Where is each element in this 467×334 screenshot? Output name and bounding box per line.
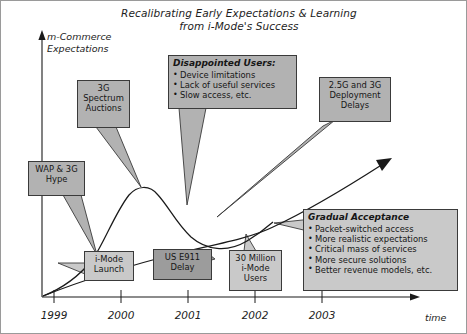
callout-wap-hype-line2: Hype	[33, 174, 80, 184]
list-item: Device limitations	[173, 70, 292, 80]
callout-gradual-acceptance[interactable]: Gradual Acceptance Packet-switched acces…	[303, 209, 458, 291]
pointer-disappointed-users	[179, 108, 206, 205]
callout-imode-launch[interactable]: i-Mode Launch	[84, 251, 134, 281]
y-axis-label: m-Commerce Expectations	[47, 31, 139, 55]
x-axis	[42, 290, 420, 303]
pointer-wap-hype	[63, 195, 97, 255]
callout-imode-launch-line2: Launch	[89, 264, 129, 274]
list-item: Packet-switched access	[308, 224, 453, 234]
chart-title-line1: Recalibrating Early Expectations	[121, 7, 295, 19]
callout-imode-users-line2: i-Mode	[234, 263, 277, 273]
callout-imode-launch-line1: i-Mode	[89, 254, 129, 264]
callout-e911-delay-line2: Delay	[158, 262, 207, 272]
pointer-imode-users	[244, 234, 256, 251]
y-axis-label-line1: m-Commerce	[47, 31, 111, 42]
diagram-canvas: Recalibrating Early Expectations & Learn…	[0, 0, 467, 334]
callout-spectrum-auctions-line3: Auctions	[82, 103, 125, 113]
callout-wap-hype-line1: WAP & 3G	[33, 164, 80, 174]
list-item: More realistic expectations	[308, 234, 453, 244]
x-tick-label-2003: 2003	[298, 309, 346, 321]
x-tick-label-2001: 2001	[164, 309, 212, 321]
list-item: More secure solutions	[308, 255, 453, 265]
list-item: Lack of useful services	[173, 80, 292, 90]
callout-gradual-acceptance-header: Gradual Acceptance	[308, 212, 453, 223]
callout-imode-users-line1: 30 Million	[234, 253, 277, 263]
pointer-imode-launch	[58, 263, 85, 274]
callout-e911-delay-line1: US E911	[158, 252, 207, 262]
callout-wap-hype[interactable]: WAP & 3G Hype	[28, 161, 85, 196]
callout-gradual-acceptance-list: Packet-switched access More realistic ex…	[308, 224, 453, 275]
acceptance-arrowhead	[376, 158, 392, 171]
list-item: Better revenue models, etc.	[308, 265, 453, 275]
callout-deployment-delays[interactable]: 2.5G and 3G Deployment Delays	[319, 77, 391, 122]
pointer-spectrum-auctions	[96, 127, 141, 187]
callout-disappointed-users[interactable]: Disappointed Users: Device limitations L…	[168, 55, 297, 109]
callout-deployment-delays-line3: Delays	[324, 100, 386, 110]
x-axis-label: time	[425, 312, 446, 323]
x-tick-label-2000: 2000	[97, 309, 145, 321]
callout-spectrum-auctions[interactable]: 3G Spectrum Auctions	[77, 80, 130, 128]
callout-spectrum-auctions-line1: 3G	[82, 83, 125, 93]
callout-e911-delay[interactable]: US E911 Delay	[153, 249, 212, 280]
callout-spectrum-auctions-line2: Spectrum	[82, 93, 125, 103]
pointer-deployment-delays	[217, 120, 335, 217]
callout-imode-users[interactable]: 30 Million i-Mode Users	[229, 250, 282, 291]
callout-disappointed-users-header: Disappointed Users:	[173, 58, 292, 69]
callout-deployment-delays-line1: 2.5G and 3G	[324, 80, 386, 90]
chart-title: Recalibrating Early Expectations & Learn…	[119, 7, 359, 33]
y-axis-label-line2: Expectations	[47, 43, 108, 54]
x-tick-label-1999: 1999	[30, 309, 78, 321]
x-tick-label-2002: 2002	[231, 309, 279, 321]
callout-disappointed-users-list: Device limitations Lack of useful servic…	[173, 70, 292, 101]
list-item: Slow access, etc.	[173, 90, 292, 100]
callout-deployment-delays-line2: Deployment	[324, 90, 386, 100]
callout-imode-users-line3: Users	[234, 273, 277, 283]
list-item: Critical mass of services	[308, 244, 453, 254]
